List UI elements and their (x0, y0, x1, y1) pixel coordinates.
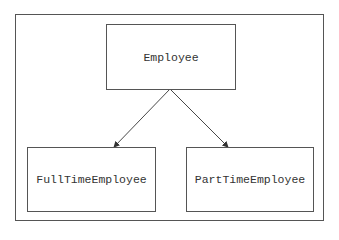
arrow-employee-to-parttime (170, 89, 228, 147)
node-fulltime-employee: FullTimeEmployee (27, 147, 156, 212)
node-parttime-employee: PartTimeEmployee (186, 147, 314, 212)
node-employee: Employee (106, 24, 236, 90)
node-label: PartTimeEmployee (195, 173, 305, 186)
node-label: Employee (143, 51, 198, 64)
arrow-employee-to-fulltime (114, 89, 170, 147)
node-label: FullTimeEmployee (36, 173, 146, 186)
